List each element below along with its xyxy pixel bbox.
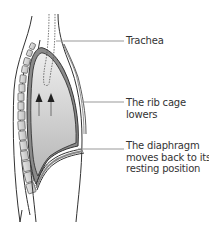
label-rib-cage-line2: lowers xyxy=(126,109,186,121)
label-diaphragm-line1: The diaphragm xyxy=(126,140,209,152)
label-diaphragm-line3: resting position xyxy=(126,163,209,175)
label-trachea-text: Trachea xyxy=(126,35,164,47)
label-rib-cage: The rib cage lowers xyxy=(126,97,186,120)
label-rib-cage-line1: The rib cage xyxy=(126,97,186,109)
label-trachea: Trachea xyxy=(126,35,164,47)
label-diaphragm-line2: moves back to its xyxy=(126,152,209,164)
label-diaphragm: The diaphragm moves back to its resting … xyxy=(126,140,209,175)
lung xyxy=(31,53,76,176)
